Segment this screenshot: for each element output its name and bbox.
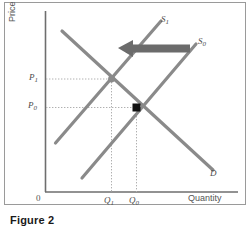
quantity-tick-q0-sub: 0 <box>136 199 140 207</box>
price-tick-p0-base: P <box>28 100 34 110</box>
origin-label: 0 <box>36 193 41 203</box>
price-tick-p1-sub: 1 <box>35 76 39 84</box>
quantity-tick-q1-base: Q <box>104 195 111 205</box>
quantity-tick-q1: Q1 <box>104 195 114 205</box>
price-tick-p1-base: P <box>29 72 35 82</box>
x-axis-title: Quantity <box>188 193 222 203</box>
y-axis-title: Price <box>7 1 17 22</box>
quantity-tick-q0: Q0 <box>129 195 139 205</box>
shift-arrow-icon <box>118 40 190 57</box>
curve-label-s1: S1 <box>161 14 169 24</box>
quantity-tick-q0-base: Q <box>129 195 136 205</box>
equilibrium-point-original <box>133 104 141 112</box>
quantity-tick-q1-sub: 1 <box>111 199 115 207</box>
figure-caption: Figure 2 <box>10 214 54 226</box>
curve-label-d: D <box>210 168 217 178</box>
curve-label-s0: S0 <box>198 36 206 46</box>
equilibrium-point-new <box>108 76 115 83</box>
price-tick-p0-sub: 0 <box>34 104 38 112</box>
price-tick-p0: P0 <box>28 100 37 110</box>
curve-label-s1-sub: 1 <box>166 18 170 26</box>
curve-label-s1-base: S <box>161 14 166 24</box>
curve-label-s0-base: S <box>198 36 203 46</box>
curve-label-s0-sub: 0 <box>203 40 207 48</box>
figure-container: Price Quantity 0 P1 P0 Q1 Q0 S1 S0 D Fig… <box>0 0 248 235</box>
price-tick-p1: P1 <box>29 72 38 82</box>
